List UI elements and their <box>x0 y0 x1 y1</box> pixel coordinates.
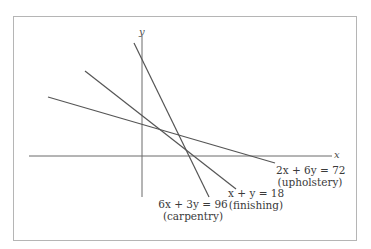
finishing-name: (finishing) <box>228 199 284 211</box>
upholstery-line <box>48 97 275 163</box>
finishing-line <box>85 71 236 189</box>
y-axis-label: y <box>139 27 145 37</box>
x-axis-label: x <box>334 150 340 160</box>
finishing-label: x + y = 18 (finishing) <box>228 187 284 211</box>
upholstery-label: 2x + 6y = 72 (upholstery) <box>276 164 344 188</box>
carpentry-name: (carpentry) <box>158 210 228 222</box>
carpentry-line <box>134 43 209 197</box>
finishing-equation: x + y = 18 <box>228 187 284 199</box>
upholstery-equation: 2x + 6y = 72 <box>276 164 344 176</box>
carpentry-equation: 6x + 3y = 96 <box>158 198 228 210</box>
upholstery-name: (upholstery) <box>276 176 344 188</box>
carpentry-label: 6x + 3y = 96 (carpentry) <box>158 198 228 222</box>
